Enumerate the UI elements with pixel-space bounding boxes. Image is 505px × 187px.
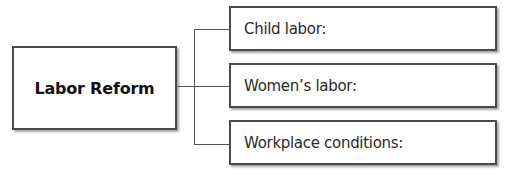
- child-node-label: Child labor:: [244, 20, 326, 38]
- child-node-label: Workplace conditions:: [244, 134, 403, 152]
- connector-branch-womens-labor: [194, 86, 229, 87]
- child-node-label: Women’s labor:: [244, 77, 357, 95]
- root-node-labor-reform: Labor Reform: [12, 46, 177, 130]
- child-node-womens-labor[interactable]: Women’s labor:: [229, 63, 497, 108]
- child-node-workplace-conditions[interactable]: Workplace conditions:: [229, 120, 497, 165]
- child-node-child-labor[interactable]: Child labor:: [229, 6, 497, 51]
- root-node-label: Labor Reform: [34, 79, 154, 98]
- connector-branch-workplace-conditions: [194, 144, 229, 145]
- connector-branch-child-labor: [194, 29, 229, 30]
- connector-trunk-vertical: [194, 29, 195, 145]
- connector-root-to-trunk: [177, 86, 195, 87]
